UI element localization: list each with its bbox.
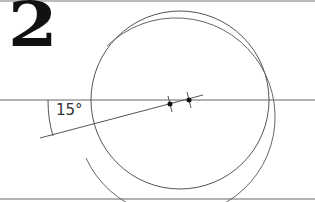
point-marker — [168, 102, 173, 107]
angle-label: 15° — [56, 103, 83, 118]
step-number: 2 — [8, 0, 58, 56]
diagram-canvas: 2 15° — [0, 0, 315, 202]
point-marker — [187, 98, 192, 103]
outer-circle-arc — [86, 18, 275, 202]
angle-arc — [48, 100, 53, 136]
